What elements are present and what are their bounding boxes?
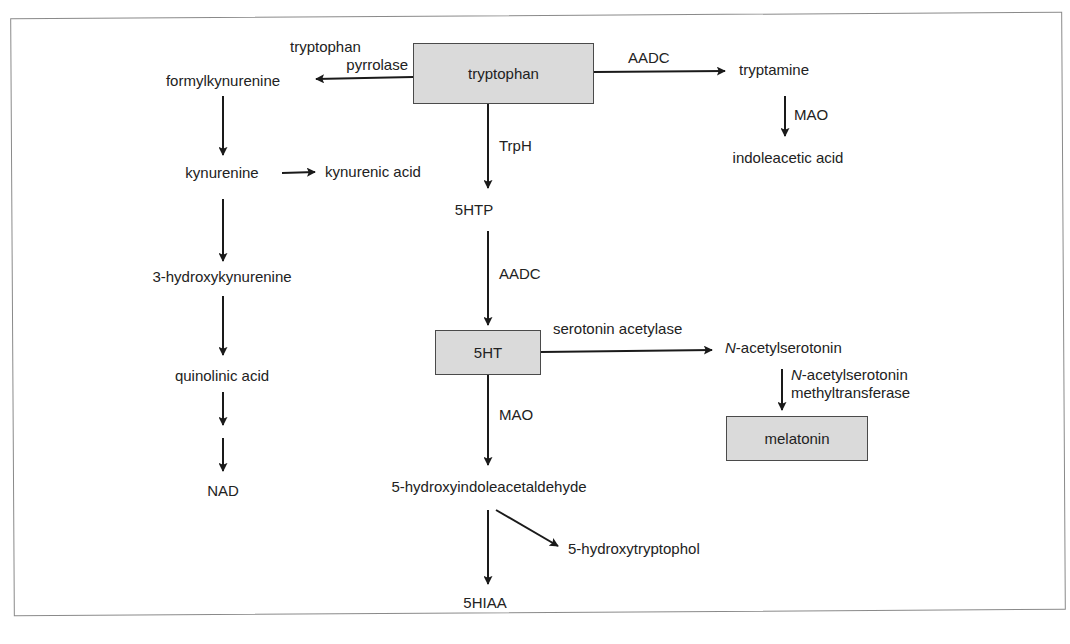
arrow-5hiald-to-5htol — [496, 510, 558, 546]
enzyme-nat-line2: methyltransferase — [791, 384, 910, 402]
enzyme-aadc-tryptamine: AADC — [628, 49, 670, 67]
node-formylkynurenine: formylkynurenine — [166, 72, 280, 90]
node-nad: NAD — [207, 482, 239, 500]
arrow-tryptophan-to-tryptamine — [594, 71, 725, 72]
node-n-acetylserotonin-italic-n: N — [725, 339, 736, 356]
enzyme-mao-tryptamine: MAO — [794, 106, 828, 124]
node-5ht-label: 5HT — [474, 344, 502, 361]
node-5ht: 5HT — [435, 330, 541, 375]
node-kynurenine: kynurenine — [185, 164, 258, 182]
node-3-hydroxykynurenine: 3-hydroxykynurenine — [152, 268, 291, 286]
node-5-hydroxytryptophol: 5-hydroxytryptophol — [568, 540, 700, 558]
node-tryptamine: tryptamine — [739, 61, 809, 79]
enzyme-trph: TrpH — [499, 137, 532, 155]
node-n-acetylserotonin: N-acetylserotonin — [725, 339, 842, 357]
node-tryptophan-label: tryptophan — [468, 65, 539, 82]
node-tryptophan: tryptophan — [413, 43, 594, 104]
node-indoleacetic-acid: indoleacetic acid — [733, 149, 844, 167]
node-n-acetylserotonin-label: -acetylserotonin — [736, 339, 842, 356]
enzyme-tryptophan-pyrrolase-line2: pyrrolase — [290, 56, 408, 74]
arrow-5ht-to-n-acetylserotonin — [541, 350, 712, 352]
enzyme-nat-line1: -acetylserotonin — [802, 366, 908, 383]
node-kynurenic-acid: kynurenic acid — [325, 163, 421, 181]
node-5hiaa: 5HIAA — [463, 594, 506, 612]
enzyme-tryptophan-pyrrolase: tryptophan pyrrolase — [290, 38, 408, 74]
node-5htp: 5HTP — [455, 201, 493, 219]
enzyme-tryptophan-pyrrolase-line1: tryptophan — [290, 38, 408, 56]
node-quinolinic-acid: quinolinic acid — [175, 367, 269, 385]
enzyme-mao-5ht: MAO — [499, 406, 533, 424]
enzyme-serotonin-acetylase: serotonin acetylase — [553, 320, 682, 338]
arrow-tryptophan-to-formylkynurenine — [316, 77, 413, 79]
node-melatonin-label: melatonin — [764, 430, 829, 447]
arrow-kynurenine-to-kynurenic-acid — [282, 172, 315, 173]
enzyme-nat: N-acetylserotonin methyltransferase — [791, 366, 910, 402]
node-5-hydroxyindoleacetaldehyde: 5-hydroxyindoleacetaldehyde — [391, 478, 586, 496]
node-melatonin: melatonin — [726, 416, 868, 461]
enzyme-aadc-5htp: AADC — [499, 265, 541, 283]
enzyme-nat-italic-n: N — [791, 366, 802, 383]
